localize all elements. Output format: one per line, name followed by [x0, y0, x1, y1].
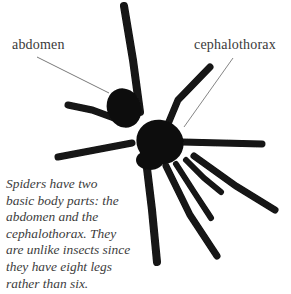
- caption-line: basic body parts: the: [6, 193, 166, 210]
- caption-line: rather than six.: [6, 276, 166, 293]
- abdomen-leader-line: [37, 57, 109, 93]
- caption-line: they have eight legs: [6, 259, 166, 276]
- caption-line: are unlike insects since: [6, 242, 166, 259]
- caption-line: abdomen and the: [6, 209, 166, 226]
- abdomen-label: abdomen: [12, 37, 65, 53]
- caption-line: Spiders have two: [6, 176, 166, 193]
- caption-line: cephalothorax. They: [6, 226, 166, 243]
- cephalothorax-label: cephalothorax: [194, 37, 276, 53]
- caption-text: Spiders have two basic body parts: the a…: [6, 176, 166, 292]
